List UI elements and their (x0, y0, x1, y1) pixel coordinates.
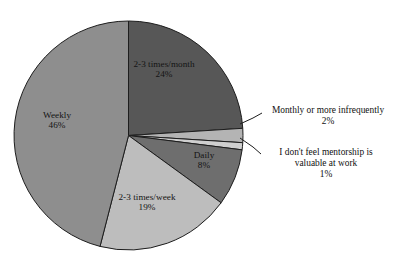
callout-label-no-value: I don't feel mentorship is valuable at w… (256, 147, 396, 180)
callout-label-name-line1: I don't feel mentorship is (256, 147, 396, 158)
callout-label-monthly-or-more-infrequently: Monthly or more infrequently 2% (258, 105, 398, 127)
callout-label-name: Monthly or more infrequently (258, 105, 398, 116)
pie-chart-canvas (0, 0, 399, 260)
pie-slices (14, 21, 243, 250)
callout-label-name-line2: valuable at work (256, 158, 396, 169)
pie-slice-2-3-times-month[interactable] (129, 21, 243, 136)
callout-label-value: 1% (256, 169, 396, 180)
pie-chart: 2-3 times/month 24% Weekly 46% 2-3 times… (0, 0, 399, 260)
callout-label-value: 2% (258, 116, 398, 127)
